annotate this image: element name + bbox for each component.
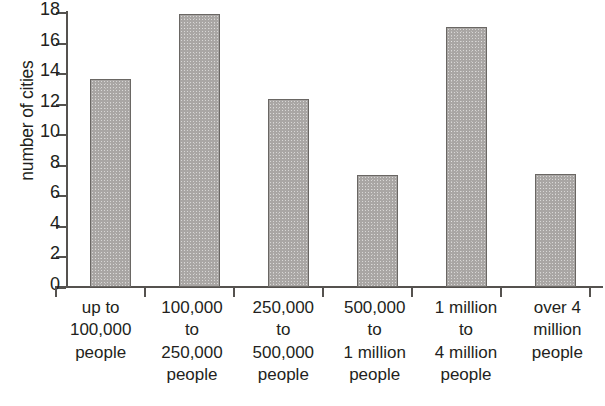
x-label-line: up to xyxy=(55,297,146,319)
x-tick-mark xyxy=(500,288,502,297)
x-tick-mark xyxy=(322,288,324,297)
x-label-line: people xyxy=(55,342,146,364)
x-axis-category-label: over 4millionpeople xyxy=(512,297,603,364)
y-tick-label: 4 xyxy=(50,214,60,232)
x-label-line: people xyxy=(238,364,329,386)
x-label-line: 100,000 xyxy=(55,319,146,341)
y-tick-label: 18 xyxy=(40,0,60,18)
x-label-line: to xyxy=(420,319,511,341)
bar[interactable] xyxy=(179,14,220,287)
x-label-line: 1 million xyxy=(329,342,420,364)
bar[interactable] xyxy=(535,174,576,287)
x-tick-mark xyxy=(411,288,413,297)
x-axis-category-label: up to100,000people xyxy=(55,297,146,364)
bar-chart: number of cities 181614121086420 up to10… xyxy=(0,0,605,406)
x-label-line: 100,000 xyxy=(146,297,237,319)
x-tick-mark xyxy=(55,288,57,297)
x-label-line: 250,000 xyxy=(238,297,329,319)
bar[interactable] xyxy=(90,79,131,287)
x-label-line: 250,000 xyxy=(146,342,237,364)
x-label-line: to xyxy=(238,319,329,341)
y-tick-label: 12 xyxy=(40,92,60,110)
x-tick-mark xyxy=(233,288,235,297)
y-tick-label: 2 xyxy=(50,244,60,262)
x-label-line: people xyxy=(512,342,603,364)
x-tick-mark xyxy=(144,288,146,297)
y-tick-label: 8 xyxy=(50,153,60,171)
x-axis-labels: up to100,000people100,000to250,000people… xyxy=(55,297,603,402)
x-tick-mark xyxy=(589,288,591,297)
x-label-line: 500,000 xyxy=(238,342,329,364)
bar[interactable] xyxy=(357,175,398,287)
x-label-line: 1 million xyxy=(420,297,511,319)
x-label-line: to xyxy=(146,319,237,341)
y-tick-label: 10 xyxy=(40,122,60,140)
x-axis-category-label: 500,000to1 millionpeople xyxy=(329,297,420,387)
y-tick-label: 6 xyxy=(50,183,60,201)
x-label-line: million xyxy=(512,319,603,341)
x-axis-category-label: 1 millionto4 millionpeople xyxy=(420,297,511,387)
x-axis-category-label: 100,000to250,000people xyxy=(146,297,237,387)
x-label-line: people xyxy=(329,364,420,386)
y-tick-label: 14 xyxy=(40,61,60,79)
x-label-line: people xyxy=(420,364,511,386)
x-label-line: people xyxy=(146,364,237,386)
y-tick-label: 16 xyxy=(40,31,60,49)
x-axis-category-label: 250,000to500,000people xyxy=(238,297,329,387)
x-label-line: to xyxy=(329,319,420,341)
x-label-line: 500,000 xyxy=(329,297,420,319)
y-axis-title: number of cities xyxy=(17,11,38,231)
x-label-line: 4 million xyxy=(420,342,511,364)
bar[interactable] xyxy=(268,99,309,287)
bar[interactable] xyxy=(446,27,487,287)
x-label-line: over 4 xyxy=(512,297,603,319)
plot-area: 181614121086420 xyxy=(66,12,600,287)
